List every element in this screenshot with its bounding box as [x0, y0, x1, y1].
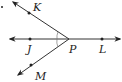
- angle-arc-kpj: [57, 32, 58, 39]
- label-m: M: [34, 70, 47, 82]
- stray-dot: [1, 6, 3, 8]
- point-m: [30, 64, 33, 67]
- rays-figure: K J P L M: [0, 0, 122, 82]
- geometry-diagram: K J P L M: [0, 0, 122, 82]
- label-k: K: [32, 1, 42, 14]
- point-k: [28, 12, 31, 15]
- point-j: [29, 38, 32, 41]
- label-l: L: [98, 43, 106, 56]
- label-j: J: [25, 43, 32, 56]
- angle-arc-jpm: [57, 39, 58, 47]
- point-l: [101, 38, 104, 41]
- label-p: P: [68, 43, 77, 56]
